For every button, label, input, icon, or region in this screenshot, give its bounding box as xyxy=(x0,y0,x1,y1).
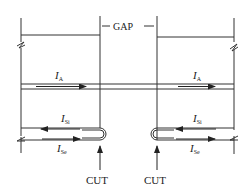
cut-label-right: CUT xyxy=(144,174,166,186)
label-ise-left: ISe xyxy=(56,142,67,155)
label-ia-right: IA xyxy=(192,69,202,82)
label-isi-left: ISi xyxy=(60,112,70,125)
break-mark-icon xyxy=(230,44,238,51)
label-ia-left: IA xyxy=(54,69,64,82)
label-ise-right: ISe xyxy=(189,142,200,155)
cut-label-left: CUT xyxy=(86,174,108,186)
gap-label: GAP xyxy=(113,21,133,32)
label-isi-right: ISi xyxy=(192,112,202,125)
diagram-canvas: GAP IA IA ISi ISe ISi ISe CUT CUT xyxy=(0,0,252,192)
break-mark-icon xyxy=(17,42,25,48)
